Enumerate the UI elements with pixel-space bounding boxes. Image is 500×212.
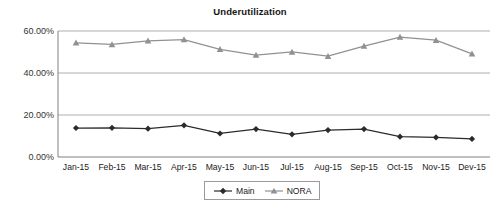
x-tick-label: Aug-15 [310,160,346,176]
legend-marker-triangle-icon [264,186,284,196]
x-tick-label: Feb-15 [94,160,130,176]
x-tick-label: Jul-15 [274,160,310,176]
data-point-main [145,126,151,132]
data-point-main [289,131,295,137]
x-axis-labels: Jan-15Feb-15Mar-15Apr-15May-15Jun-15Jul-… [58,160,490,176]
data-point-main [361,126,367,132]
data-point-main [109,125,115,131]
x-tick-label: Jun-15 [238,160,274,176]
data-point-main [253,126,259,132]
x-tick-label: May-15 [202,160,238,176]
data-point-main [73,125,79,131]
series-nora [73,34,476,59]
x-tick-label: Apr-15 [166,160,202,176]
x-tick-label: Jan-15 [58,160,94,176]
data-point-main [181,122,187,128]
x-tick-label: Oct-15 [382,160,418,176]
legend-marker-diamond-icon [213,186,233,196]
series-line-main [76,125,472,139]
axis-lines [58,31,490,157]
x-tick-label: Sep-15 [346,160,382,176]
series-line-nora [76,37,472,56]
data-point-main [469,136,475,142]
legend-item-main[interactable]: Main [213,186,255,196]
data-point-main [397,134,403,140]
x-tick-label: Dev-15 [454,160,490,176]
legend-label-main: Main [236,186,255,196]
data-point-main [217,130,223,136]
chart-container: Underutilization 0.00%20.00%40.00%60.00%… [0,0,500,212]
legend-item-nora[interactable]: NORA [264,186,312,196]
series-main [73,122,475,142]
x-tick-label: Nov-15 [418,160,454,176]
data-point-main [433,134,439,140]
data-point-main [325,127,331,133]
x-tick-label: Mar-15 [130,160,166,176]
chart-legend: Main NORA [204,181,320,200]
legend-label-nora: NORA [287,186,312,196]
